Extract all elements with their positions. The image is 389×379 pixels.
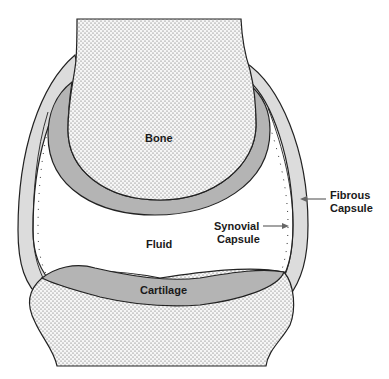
synovial-capsule-arrowhead <box>282 223 289 229</box>
fibrous-capsule-label-line2: Capsule <box>330 202 373 214</box>
synovial-capsule-label-line1: Synovial <box>214 220 259 232</box>
synovial-joint-diagram: Bone Fluid Cartilage Synovial Capsule Fi… <box>0 0 389 379</box>
bone-label: Bone <box>145 132 173 144</box>
fibrous-capsule-label-line1: Fibrous <box>330 189 370 201</box>
synovial-capsule-label-line2: Capsule <box>217 233 260 245</box>
upper-bone <box>68 19 256 200</box>
fluid-label: Fluid <box>146 238 172 250</box>
cartilage-label: Cartilage <box>140 284 187 296</box>
